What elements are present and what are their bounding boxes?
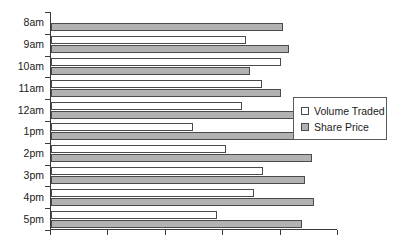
y-axis-label: 10am — [0, 61, 44, 72]
bar-share-price — [51, 45, 289, 53]
y-axis-label: 9am — [0, 39, 44, 50]
x-axis-tick — [337, 230, 338, 235]
chart-category-row: 11am — [0, 77, 403, 99]
bar-volume-traded — [51, 211, 217, 219]
y-axis-label: 1pm — [0, 126, 44, 137]
bar-share-price — [51, 132, 300, 140]
bar-share-price — [51, 176, 305, 184]
legend-swatch-share-price — [301, 123, 309, 131]
y-axis-label: 11am — [0, 83, 44, 94]
y-axis-label: 12am — [0, 105, 44, 116]
chart-category-row: 5pm — [0, 208, 403, 230]
bar-volume-traded — [51, 36, 246, 44]
legend-item-share-price: Share Price — [301, 121, 369, 133]
y-axis-label: 3pm — [0, 170, 44, 181]
bar-volume-traded — [51, 189, 254, 197]
legend-label-volume-traded: Volume Traded — [314, 105, 385, 117]
legend-label-share-price: Share Price — [314, 121, 369, 133]
chart-category-row: 10am — [0, 56, 403, 78]
bar-volume-traded — [51, 58, 281, 66]
bar-share-price — [51, 89, 281, 97]
bar-share-price — [51, 67, 250, 75]
y-axis-label: 8am — [0, 17, 44, 28]
bar-volume-traded — [51, 102, 242, 110]
bar-volume-traded — [51, 80, 262, 88]
chart-category-row: 8am — [0, 12, 403, 34]
x-axis-tick — [222, 230, 223, 235]
legend-item-volume-traded: Volume Traded — [301, 105, 385, 117]
bar-share-price — [51, 154, 312, 162]
chart-legend: Volume Traded Share Price — [293, 97, 387, 140]
legend-swatch-volume-traded — [301, 107, 309, 115]
x-axis-tick — [165, 230, 166, 235]
bar-volume-traded — [51, 145, 226, 153]
y-axis-label: 2pm — [0, 148, 44, 159]
bar-chart: 8am9am10am11am12am1pm2pm3pm4pm5pm Volume… — [0, 0, 403, 242]
x-axis-tick — [280, 230, 281, 235]
chart-category-row: 9am — [0, 34, 403, 56]
bar-volume-traded — [51, 167, 263, 175]
chart-category-row: 3pm — [0, 165, 403, 187]
bar-share-price — [51, 111, 296, 119]
chart-category-row: 4pm — [0, 186, 403, 208]
bar-volume-traded — [51, 123, 193, 131]
chart-category-row: 2pm — [0, 143, 403, 165]
y-axis-tick — [45, 230, 50, 231]
bar-share-price — [51, 220, 302, 228]
y-axis-label: 4pm — [0, 192, 44, 203]
x-axis-tick — [50, 230, 51, 235]
y-axis-label: 5pm — [0, 214, 44, 225]
x-axis-tick — [107, 230, 108, 235]
bar-share-price — [51, 23, 283, 31]
bar-share-price — [51, 198, 314, 206]
